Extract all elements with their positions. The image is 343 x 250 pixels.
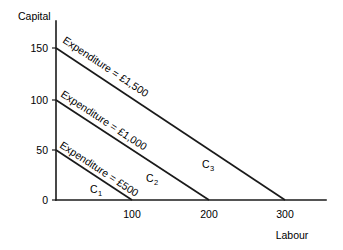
annotation-expenditure-1500: Expenditure = £1,500 [61,34,151,99]
isocost-line-c3 [56,48,285,200]
curve-label-c2-subscript: 2 [154,178,158,187]
x-tick-label-300: 300 [276,208,294,220]
curve-label-c1-subscript: 1 [98,189,102,198]
curve-label-c2: C 2 [146,172,158,187]
x-axis-title: Labour [276,229,309,241]
y-tick-label-50: 50 [36,144,48,156]
y-tick-labels: 150 100 50 0 [30,42,48,206]
curve-label-c3-subscript: 3 [210,164,214,173]
x-tick-label-100: 100 [123,208,141,220]
y-tick-label-150: 150 [30,42,48,54]
y-axis-title: Capital [18,10,51,22]
x-tick-labels: 100 200 300 [123,208,294,220]
curve-label-c3: C 3 [202,158,214,173]
y-tick-label-0: 0 [42,194,48,206]
x-tick-label-200: 200 [200,208,218,220]
curve-label-c1-base: C [90,183,98,195]
curve-label-c2-base: C [146,172,154,184]
chart-canvas: 150 100 50 0 100 200 300 Capital Labour … [0,0,343,250]
y-tick-label-100: 100 [30,94,48,106]
curve-label-c3-base: C [202,158,210,170]
curve-label-c1: C 1 [90,183,102,198]
isocost-chart-figure: 150 100 50 0 100 200 300 Capital Labour … [0,0,343,250]
